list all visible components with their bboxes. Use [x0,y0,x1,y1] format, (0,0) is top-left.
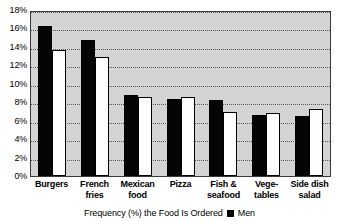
bar-group [116,12,159,176]
bar-women [52,50,66,176]
bar-women [309,109,323,176]
y-axis-tick-label: 16% [10,24,27,33]
bar-women [138,97,152,176]
bar-women [223,112,237,176]
bars-layer [31,12,330,176]
y-axis-tick-label: 6% [14,117,27,126]
y-axis-tick-label: 8% [14,98,27,107]
bar-group [287,12,330,176]
bar-group [74,12,117,176]
bar-men [252,115,266,176]
bar-chart: 18%16%14%12%10%8%6%4%2%0% BurgersFrench … [0,0,339,221]
x-axis-category-label: Side dish salad [288,179,331,205]
legend-caption: Frequency (%) the Food Is Ordered [84,208,223,218]
x-axis-category-label: Pizza [159,179,202,205]
x-axis-category-label: Burgers [30,179,73,205]
chart-legend: Frequency (%) the Food Is Ordered Men [0,206,339,220]
bar-men [295,116,309,176]
bar-group [31,12,74,176]
y-axis-tick-label: 0% [14,172,27,181]
y-axis-tick-label: 4% [14,135,27,144]
x-axis: BurgersFrench friesMexican foodPizzaFish… [30,179,331,205]
y-axis-tick-label: 2% [14,154,27,163]
bar-men [124,95,138,176]
bar-group [202,12,245,176]
bar-men [38,26,52,176]
x-axis-category-label: Mexican food [116,179,159,205]
y-axis: 18%16%14%12%10%8%6%4%2%0% [0,0,30,185]
bar-men [81,40,95,176]
x-axis-category-label: French fries [73,179,116,205]
x-axis-category-label: Fish & seafood [202,179,245,205]
bar-men [167,99,181,176]
y-axis-tick-label: 14% [10,43,27,52]
bar-group [245,12,288,176]
bar-women [266,113,280,176]
legend-series-label-men: Men [238,208,255,218]
y-axis-tick-label: 18% [10,6,27,15]
bar-women [95,57,109,176]
x-axis-category-label: Vege- tables [245,179,288,205]
y-axis-tick-label: 10% [10,80,27,89]
bar-women [181,97,195,176]
bar-group [159,12,202,176]
y-axis-tick-label: 12% [10,61,27,70]
plot-area [30,11,331,177]
legend-swatch-men-icon [227,210,234,217]
bar-men [209,100,223,176]
